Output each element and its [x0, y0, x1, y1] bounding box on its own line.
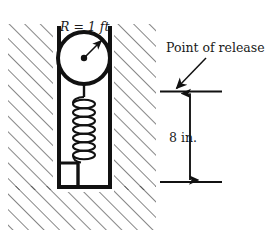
pulley-icon — [58, 32, 110, 84]
dimension-8in: 8 in. — [160, 92, 222, 183]
diagram-canvas: R = 1 ft Point of release 8 in. — [0, 0, 274, 237]
hatch-region-left — [8, 24, 58, 190]
pointer-arrow-icon — [177, 58, 207, 89]
spring-coils — [73, 100, 95, 160]
hatch-region-right — [108, 24, 156, 190]
dimension-label: 8 in. — [169, 130, 197, 145]
hatch-region-bottom — [8, 186, 156, 230]
radius-label: R = 1 ft — [59, 19, 110, 34]
spring-coil-icon — [73, 84, 95, 163]
mechanics-diagram: R = 1 ft Point of release 8 in. — [0, 0, 274, 237]
point-of-release-label: Point of release — [166, 40, 265, 55]
